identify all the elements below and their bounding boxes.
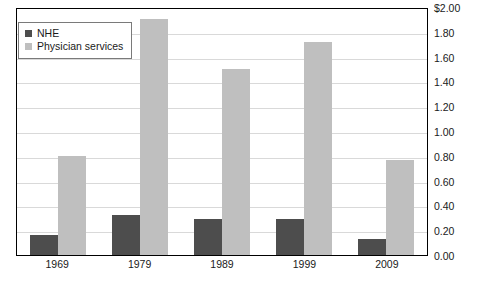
y-tick-label: 0.40 (434, 201, 454, 211)
x-tick-label: 1989 (181, 258, 263, 270)
bar-group (263, 9, 345, 255)
legend-label-physician-services: Physician services (37, 40, 123, 53)
x-tick-label: 1969 (16, 258, 98, 270)
y-tick-label: 0.80 (434, 152, 454, 162)
y-tick-label: 1.80 (434, 28, 454, 38)
y-tick-label: 0.60 (434, 177, 454, 187)
x-tick-label: 1979 (98, 258, 180, 270)
bar-nhe-1989 (194, 219, 222, 255)
legend-swatch-icon-physician-services (25, 43, 32, 50)
bar-physician-services-1999 (304, 42, 332, 255)
y-tick-label: 1.60 (434, 53, 454, 63)
y-tick-label: 0.00 (434, 251, 454, 261)
legend-swatch-icon-nhe (25, 30, 32, 37)
legend-label-nhe: NHE (37, 27, 59, 40)
bar-physician-services-1969 (58, 156, 86, 255)
bar-physician-services-1979 (140, 19, 168, 255)
bar-chart: 0.000.200.400.600.801.001.201.401.601.80… (0, 0, 496, 281)
y-tick-label: 1.00 (434, 127, 454, 137)
legend-item-physician-services: Physician services (25, 40, 123, 53)
x-axis: 19691979198919992009 (16, 258, 428, 270)
bar-nhe-1999 (276, 219, 304, 255)
bar-nhe-1969 (30, 235, 58, 255)
x-tick-label: 1999 (263, 258, 345, 270)
bar-physician-services-1989 (222, 69, 250, 255)
y-axis: 0.000.200.400.600.801.001.201.401.601.80… (434, 8, 494, 256)
legend-item-nhe: NHE (25, 27, 123, 40)
y-tick-label: $2.00 (434, 3, 460, 13)
chart-legend: NHE Physician services (18, 22, 132, 59)
x-tick-label: 2009 (346, 258, 428, 270)
bar-physician-services-2009 (386, 160, 414, 255)
bar-nhe-1979 (112, 215, 140, 255)
bar-group (181, 9, 263, 255)
y-tick-label: 1.20 (434, 102, 454, 112)
bar-nhe-2009 (358, 239, 386, 255)
y-tick-label: 1.40 (434, 77, 454, 87)
y-tick-label: 0.20 (434, 226, 454, 236)
bar-group (345, 9, 427, 255)
